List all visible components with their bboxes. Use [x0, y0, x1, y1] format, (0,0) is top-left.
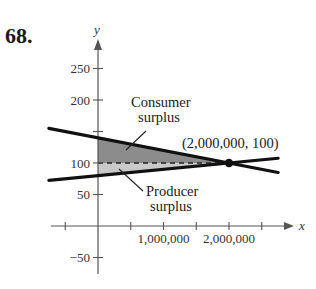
- chart: 68. xy1,000,0002,000,00025020010050−50 C…: [0, 0, 316, 289]
- x-tick-label: 1,000,000: [138, 231, 190, 246]
- consumer-surplus-label-line1: Consumer: [131, 94, 191, 110]
- producer-surplus-label-line2: surplus: [150, 198, 192, 214]
- producer-surplus-label-line1: Producer: [146, 183, 199, 199]
- y-tick-label: 200: [71, 93, 91, 108]
- y-axis-label: y: [92, 22, 100, 37]
- y-axis-arrow-icon: [94, 39, 102, 50]
- y-tick-label: 250: [71, 61, 91, 76]
- x-axis-label: x: [298, 218, 305, 233]
- y-tick-label: −50: [70, 250, 90, 265]
- equilibrium-point: [225, 159, 233, 167]
- y-tick-label: 50: [77, 187, 90, 202]
- y-tick-label: 100: [71, 156, 91, 171]
- equilibrium-label: (2,000,000, 100): [182, 135, 279, 152]
- x-axis-arrow-icon: [284, 222, 294, 230]
- consumer-surplus-label-line2: surplus: [138, 109, 180, 125]
- x-tick-label: 2,000,000: [203, 231, 255, 246]
- problem-number: 68.: [5, 23, 33, 48]
